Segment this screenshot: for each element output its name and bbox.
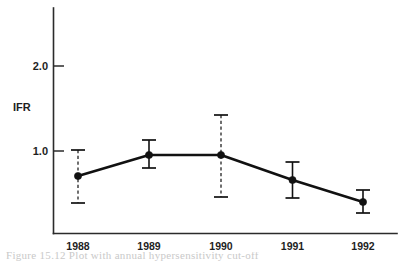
x-tick-label-1989: 1989: [137, 240, 161, 252]
y-axis-label: IFR: [13, 101, 31, 113]
y-tick-label-1-0: 1.0: [33, 145, 48, 157]
chart-background: [0, 0, 402, 263]
x-tick-label-1991: 1991: [281, 240, 305, 252]
data-point-1989: [145, 151, 152, 158]
figure-caption-text: Figure 15.12 Plot with annual hypersensi…: [6, 252, 259, 261]
data-point-1992: [359, 198, 366, 205]
figure-container: 2.0 1.0 IFR: [0, 0, 402, 263]
figure-caption: Figure 15.12 Plot with annual hypersensi…: [0, 252, 402, 263]
x-tick-label-1988: 1988: [66, 240, 90, 252]
data-point-1991: [289, 176, 296, 183]
y-tick-label-2-0: 2.0: [33, 60, 48, 72]
ifr-line-chart: 2.0 1.0 IFR: [0, 0, 402, 263]
data-point-1988: [74, 172, 81, 179]
x-tick-label-1992: 1992: [351, 240, 375, 252]
x-tick-label-1990: 1990: [209, 240, 233, 252]
data-point-1990: [217, 151, 224, 158]
